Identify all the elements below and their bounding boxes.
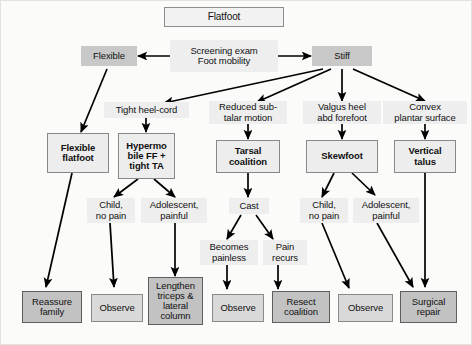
node-vertical-talus[interactable]: Vertical talus (394, 140, 456, 173)
node-becomes-painless[interactable]: Becomes painless (200, 240, 258, 265)
node-flexible-flatfoot[interactable]: Flexible flatfoot (47, 133, 109, 173)
node-flatfoot[interactable]: Flatfoot (164, 7, 284, 27)
flatfoot-algorithm-diagram: Flatfoot Screening exam Foot mobility Fl… (0, 0, 472, 345)
node-convex-plantar-surface[interactable]: Convex plantar surface (383, 101, 467, 124)
node-reduced-subtalar-motion[interactable]: Reduced sub- talar motion (209, 101, 287, 124)
node-lengthen-triceps-lateral-column[interactable]: Lengthen triceps & lateral column (148, 277, 203, 325)
node-observe-painless[interactable]: Observe (212, 294, 264, 322)
node-tarsal-coalition[interactable]: Tarsal coalition (216, 140, 280, 173)
node-observe-flexible[interactable]: Observe (91, 294, 143, 322)
node-adolescent-painful-skewfoot[interactable]: Adolescent, painful (353, 198, 419, 223)
node-tight-heel-cord[interactable]: Tight heel-cord (104, 102, 189, 118)
node-adolescent-painful-hypermobile[interactable]: Adolescent, painful (141, 198, 207, 223)
node-pain-recurs[interactable]: Pain recurs (263, 240, 307, 265)
node-observe-skewfoot[interactable]: Observe (338, 294, 393, 322)
node-skewfoot[interactable]: Skewfoot (306, 140, 378, 173)
node-child-no-pain-skewfoot[interactable]: Child, no pain (300, 198, 348, 223)
node-child-no-pain-hypermobile[interactable]: Child, no pain (87, 198, 135, 223)
node-stiff[interactable]: Stiff (312, 46, 372, 66)
node-reassure-family[interactable]: Reassure family (22, 291, 82, 323)
node-valgus-heel-abd-forefoot[interactable]: Valgus heel abd forefoot (303, 101, 381, 124)
node-flexible[interactable]: Flexible (81, 46, 137, 66)
node-resect-coalition[interactable]: Resect coalition (272, 291, 330, 323)
node-surgical-repair[interactable]: Surgical repair (400, 291, 457, 323)
node-cast[interactable]: Cast (229, 198, 269, 214)
node-screening-exam[interactable]: Screening exam Foot mobility (170, 40, 278, 72)
node-hypermobile-ff-tight-ta[interactable]: Hypermo bile FF + tight TA (118, 133, 175, 179)
